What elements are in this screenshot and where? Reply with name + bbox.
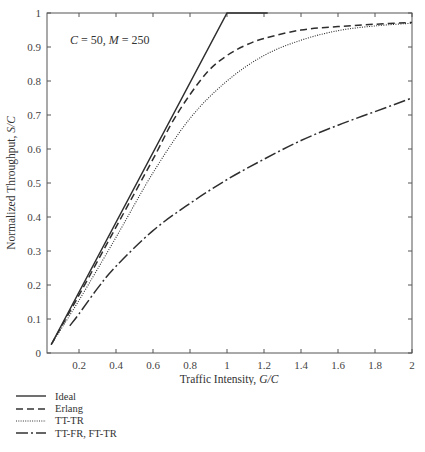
- y-tick-label: 0.1: [27, 313, 41, 325]
- legend-label: Erlang: [55, 403, 83, 414]
- y-tick-label: 1: [36, 7, 42, 19]
- x-tick-label: 1.6: [331, 359, 345, 371]
- x-tick-label: 1.2: [257, 359, 271, 371]
- legend-item-tt-fr-ft-tr: TT-FR, FT-TR: [14, 427, 117, 439]
- dotted-line-icon: [14, 416, 48, 426]
- series-tt-tr: [51, 23, 412, 344]
- y-tick-label: 0.6: [27, 143, 41, 155]
- x-tick-label: 0.2: [72, 359, 86, 371]
- x-axis-title: Traffic Intensity, G/C: [180, 373, 279, 385]
- throughput-chart: 0.20.40.60.811.21.41.61.82 00.10.20.30.4…: [0, 0, 425, 385]
- x-tick-label: 0.6: [146, 359, 160, 371]
- x-tick-label: 0.8: [183, 359, 197, 371]
- y-tick-label: 0: [36, 347, 42, 359]
- series-erlang: [51, 23, 412, 345]
- legend-label: TT-TR: [55, 415, 84, 426]
- x-tick-label: 1: [224, 359, 230, 371]
- x-tick-label: 1.8: [368, 359, 382, 371]
- x-tick-label: 0.4: [109, 359, 123, 371]
- series-ideal: [51, 13, 267, 345]
- dash-dot-line-icon: [14, 428, 48, 438]
- y-tick-label: 0.3: [27, 245, 41, 257]
- parameter-annotation: C = 50, M = 250: [70, 33, 150, 47]
- plot-frame: [47, 13, 412, 353]
- y-tick-label: 0.4: [27, 211, 41, 223]
- y-tick-label: 0.7: [27, 109, 41, 121]
- legend-item-ideal: Ideal: [14, 390, 117, 402]
- solid-line-icon: [14, 391, 48, 401]
- x-tick-label: 2: [409, 359, 415, 371]
- y-tick-label: 0.2: [27, 279, 41, 291]
- y-axis-title: Normalized Throughput, S/C: [5, 116, 18, 250]
- legend-label: TT-FR, FT-TR: [55, 428, 117, 439]
- legend: Ideal Erlang TT-TR TT-FR, FT-TR: [14, 390, 117, 440]
- x-axis-ticks: 0.20.40.60.811.21.41.61.82: [72, 13, 415, 371]
- plot-area: [47, 13, 412, 353]
- y-tick-label: 0.8: [27, 75, 41, 87]
- dashed-line-icon: [14, 404, 48, 414]
- y-tick-label: 0.5: [27, 177, 41, 189]
- y-tick-label: 0.9: [27, 41, 41, 53]
- x-tick-label: 1.4: [294, 359, 308, 371]
- legend-item-erlang: Erlang: [14, 402, 117, 414]
- data-series: [51, 13, 412, 345]
- legend-label: Ideal: [55, 391, 76, 402]
- legend-item-tt-tr: TT-TR: [14, 415, 117, 427]
